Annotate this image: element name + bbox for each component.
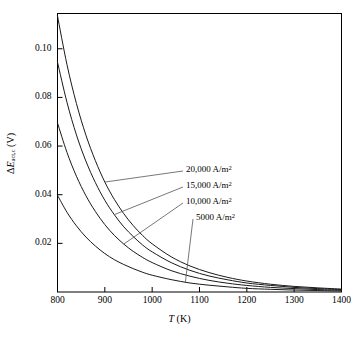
series-annotation-label: 10,000 A/m2 bbox=[186, 196, 232, 206]
y-tick-label: 0.02 bbox=[12, 237, 52, 247]
series-annotation-value: 10,000 A/m bbox=[186, 196, 229, 206]
series-annotation-value: 20,000 A/m bbox=[186, 164, 229, 174]
x-tick-label: 800 bbox=[38, 295, 78, 305]
y-tick-label: 0.04 bbox=[12, 189, 52, 199]
series-annotation-exponent: 2 bbox=[229, 196, 232, 203]
y-axis-title-unit: (V) bbox=[5, 133, 16, 149]
y-axis-title-subscript: act,c bbox=[9, 149, 16, 161]
series-annotation-label: 5000 A/m2 bbox=[196, 212, 235, 222]
y-tick-label: 0.08 bbox=[12, 91, 52, 101]
series-annotation-label: 20,000 A/m2 bbox=[186, 164, 232, 174]
series-annotation-label: 15,000 A/m2 bbox=[186, 180, 232, 190]
figure-container: 80090010001100120013001400 0.020.040.060… bbox=[0, 0, 359, 337]
series-annotation-value: 5000 A/m bbox=[196, 212, 232, 222]
x-tick-label: 900 bbox=[85, 295, 125, 305]
y-tick-label: 0.06 bbox=[12, 140, 52, 150]
series-annotation-exponent: 2 bbox=[232, 212, 235, 219]
series-annotation-value: 15,000 A/m bbox=[186, 180, 229, 190]
x-tick-label: 1100 bbox=[180, 295, 220, 305]
x-tick-label: 1400 bbox=[322, 295, 359, 305]
x-tick-label: 1300 bbox=[274, 295, 314, 305]
y-axis-title-delta: ΔEact,c bbox=[5, 149, 16, 174]
x-axis-title-unit: (K) bbox=[174, 313, 190, 324]
x-axis-title: T (K) bbox=[0, 313, 359, 324]
chart-plot-area bbox=[0, 0, 359, 337]
y-tick-label: 0.10 bbox=[12, 43, 52, 53]
x-tick-label: 1200 bbox=[227, 295, 267, 305]
series-annotation-exponent: 2 bbox=[229, 164, 232, 171]
series-annotation-exponent: 2 bbox=[229, 180, 232, 187]
x-tick-label: 1000 bbox=[132, 295, 172, 305]
y-axis-title: ΔEact,c (V) bbox=[5, 104, 16, 204]
